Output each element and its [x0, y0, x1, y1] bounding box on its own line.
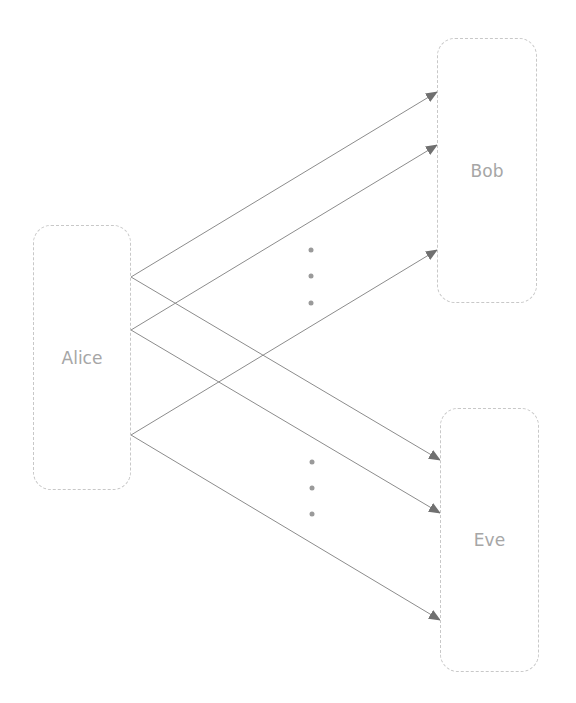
arrow-alice-to-bob	[131, 145, 437, 330]
lower-ellipsis-dot	[310, 460, 315, 465]
lower-ellipsis-dot	[310, 486, 315, 491]
ellipsis-dots	[309, 248, 315, 517]
bob-label: Bob	[471, 161, 504, 181]
arrow-alice-to-bob	[131, 250, 437, 435]
eve-label: Eve	[474, 530, 505, 550]
arrow-alice-to-eve	[131, 435, 440, 620]
arrow-alice-to-bob	[131, 92, 437, 277]
upper-ellipsis-dot	[309, 274, 314, 279]
upper-ellipsis-dot	[309, 301, 314, 306]
lower-ellipsis-dot	[310, 512, 315, 517]
eve-node: Eve	[440, 408, 539, 672]
upper-ellipsis-dot	[309, 248, 314, 253]
arrow-edges	[131, 92, 440, 620]
alice-node: Alice	[33, 225, 131, 490]
alice-label: Alice	[62, 348, 103, 368]
arrow-alice-to-eve	[131, 330, 440, 513]
arrow-alice-to-eve	[131, 277, 440, 460]
bob-node: Bob	[437, 38, 537, 303]
